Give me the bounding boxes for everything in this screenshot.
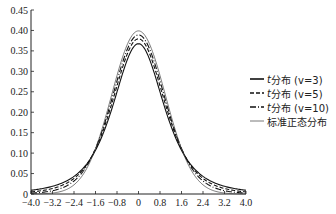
axes: −4.0−3.2−2.4−1.6−0.800.81.62.43.24.000.0… [11, 5, 253, 209]
x-tick-label: 3.2 [218, 197, 231, 208]
y-tick-label: 0 [23, 189, 28, 200]
y-tick-label: 0.20 [11, 107, 29, 118]
x-tick-label: 0 [136, 197, 141, 208]
curve-t3 [31, 44, 246, 191]
legend-item-normal: 标准正态分布 [250, 114, 329, 128]
legend: t分布 (v=3) t分布 (v=5) t分布 (v=10) 标准正态分布 [250, 72, 329, 128]
y-tick-label: 0.40 [11, 25, 29, 36]
y-tick-label: 0.25 [11, 86, 29, 97]
dashed-line-icon [250, 89, 264, 97]
y-tick-label: 0.10 [11, 148, 29, 159]
x-tick-label: −0.8 [108, 197, 126, 208]
legend-item-t10: t分布 (v=10) [250, 100, 329, 114]
solid-line-icon [250, 75, 264, 83]
y-tick-label: 0.30 [11, 66, 29, 77]
curve-normal [31, 31, 246, 194]
thin-line-icon [250, 117, 264, 125]
legend-item-t5: t分布 (v=5) [250, 86, 329, 100]
x-tick-label: 2.4 [197, 197, 210, 208]
curves [31, 31, 246, 194]
legend-label: 分布 (v=5) [271, 86, 323, 101]
y-tick-label: 0.05 [11, 168, 29, 179]
x-tick-label: −1.6 [86, 197, 104, 208]
x-tick-label: −3.2 [43, 197, 61, 208]
y-tick-label: 0.35 [11, 45, 29, 56]
x-tick-label: 4.0 [240, 197, 253, 208]
y-tick-label: 0.45 [11, 5, 29, 16]
dashdot-line-icon [250, 103, 264, 111]
x-tick-label: −2.4 [65, 197, 83, 208]
x-tick-label: 0.8 [154, 197, 167, 208]
legend-label: 分布 (v=10) [271, 100, 329, 115]
legend-label: 分布 (v=3) [271, 72, 323, 87]
y-tick-label: 0.15 [11, 127, 29, 138]
legend-item-t3: t分布 (v=3) [250, 72, 329, 86]
x-tick-label: 1.6 [175, 197, 188, 208]
curve-t5 [31, 39, 246, 192]
legend-label: 标准正态分布 [267, 114, 327, 129]
curve-t10 [31, 35, 246, 193]
